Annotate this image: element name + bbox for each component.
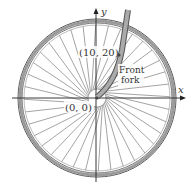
- front-fork-label-line2: fork: [121, 75, 140, 85]
- point-label-origin: (0, 0): [65, 102, 92, 113]
- spoke: [100, 93, 154, 144]
- x-axis-label: x: [178, 84, 184, 95]
- point-origin: [95, 96, 98, 99]
- spoke: [101, 93, 145, 153]
- wheel-diagram: y x (10, 20) (0, 0) Front fork: [0, 0, 194, 186]
- spoke: [40, 52, 94, 103]
- spoke: [59, 35, 92, 101]
- front-fork-label-line1: Front: [119, 65, 145, 75]
- x-axis-arrow-icon: [180, 96, 186, 101]
- spoke: [33, 63, 95, 104]
- spoke: [99, 92, 161, 133]
- y-axis-arrow-icon: [94, 8, 99, 14]
- spoke: [102, 94, 135, 160]
- point-label-10-20: (10, 20): [79, 47, 119, 58]
- spoke: [83, 26, 91, 100]
- spoke: [103, 96, 111, 170]
- y-axis-label: y: [100, 6, 107, 17]
